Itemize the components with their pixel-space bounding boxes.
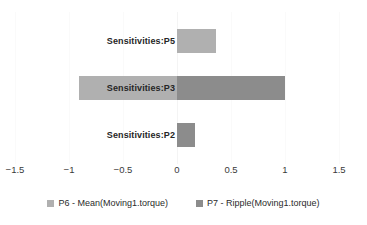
x-tick-label-0: 0 xyxy=(174,164,179,175)
x-tick-label--1.5: −1.5 xyxy=(6,164,25,175)
legend-item-ripple[interactable]: P7 - Ripple(Moving1.torque) xyxy=(196,198,320,208)
legend-label-ripple: P7 - Ripple(Moving1.torque) xyxy=(207,198,320,208)
bar-p5-mean[interactable] xyxy=(177,29,216,53)
bar-label-p5: Sensitivities:P5 xyxy=(107,31,177,51)
legend-label-mean: P6 - Mean(Moving1.torque) xyxy=(58,198,168,208)
bars-container: Sensitivities:P5 Sensitivities:P3 Sensit… xyxy=(15,12,353,164)
legend-swatch-icon-ripple xyxy=(196,200,203,207)
sensitivity-bar-chart: Sensitivities:P5 Sensitivities:P3 Sensit… xyxy=(0,0,367,225)
legend-item-mean[interactable]: P6 - Mean(Moving1.torque) xyxy=(47,198,168,208)
plot-area: Sensitivities:P5 Sensitivities:P3 Sensit… xyxy=(15,12,353,164)
x-axis: −1.5 −1 −0.5 0 0.5 1 1.5 xyxy=(15,164,353,182)
bar-p3-ripple[interactable] xyxy=(177,76,285,100)
x-tick-label-1.5: 1.5 xyxy=(332,164,345,175)
x-tick-label--1: −1 xyxy=(64,164,75,175)
x-tick-label-0.5: 0.5 xyxy=(224,164,237,175)
bar-row-p5: Sensitivities:P5 xyxy=(15,18,353,64)
chart-legend: P6 - Mean(Moving1.torque) P7 - Ripple(Mo… xyxy=(0,194,367,212)
x-tick-label-1: 1 xyxy=(282,164,287,175)
legend-swatch-icon-mean xyxy=(47,200,54,207)
bar-row-p2: Sensitivities:P2 xyxy=(15,112,353,158)
x-tick-label--0.5: −0.5 xyxy=(114,164,133,175)
bar-label-p2: Sensitivities:P2 xyxy=(107,125,177,145)
bar-row-p3: Sensitivities:P3 xyxy=(15,65,353,111)
bar-p2-ripple[interactable] xyxy=(177,123,195,147)
bar-label-p3: Sensitivities:P3 xyxy=(107,78,177,98)
